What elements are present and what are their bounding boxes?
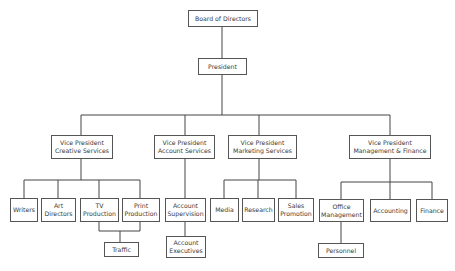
account-executives-box: Account Executives <box>166 236 206 258</box>
account-supervision-box: Account Supervision <box>165 198 206 222</box>
sales-promotion-box: Sales Promotion <box>278 198 314 222</box>
vp-marketing-services-box: Vice President Marketing Services <box>228 135 297 159</box>
accounting-box: Accounting <box>370 199 411 222</box>
art-directors-box: Art Directors <box>41 198 76 222</box>
research-box: Research <box>242 198 275 222</box>
personnel-box: Personnel <box>318 243 364 258</box>
vp-management-finance-box: Vice President Management & Finance <box>349 135 431 159</box>
traffic-box: Traffic <box>104 242 139 257</box>
writers-box: Writers <box>10 198 38 222</box>
media-box: Media <box>210 198 239 222</box>
print-production-box: Print Production <box>122 198 160 222</box>
tv-production-box: TV Production <box>80 198 119 222</box>
vp-creative-services-box: Vice President Creative Services <box>51 135 113 159</box>
president-box: President <box>198 58 247 75</box>
finance-box: Finance <box>416 199 448 222</box>
vp-account-services-box: Vice President Account Services <box>154 135 215 159</box>
board-of-directors-box: Board of Directors <box>188 10 258 27</box>
office-management-box: Office Management <box>319 199 364 222</box>
